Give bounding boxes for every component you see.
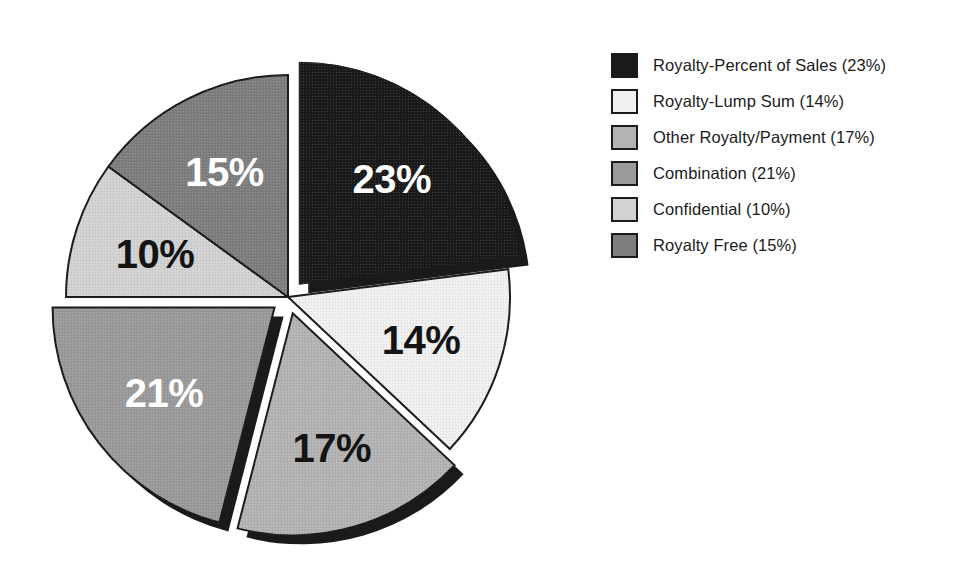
chart-legend: Royalty-Percent of Sales (23%) Royalty-L… <box>611 47 961 263</box>
slice-value-label: 17% <box>293 426 372 470</box>
legend-item[interactable]: Royalty-Lump Sum (14%) <box>611 83 961 119</box>
legend-swatch-icon <box>611 89 638 114</box>
legend-item-label: Confidential (10%) <box>653 200 791 219</box>
slice-value-label: 14% <box>382 318 461 362</box>
slice-texture-layer <box>53 62 520 535</box>
legend-item[interactable]: Royalty Free (15%) <box>611 227 961 263</box>
legend-item[interactable]: Confidential (10%) <box>611 191 961 227</box>
legend-item-label: Other Royalty/Payment (17%) <box>653 128 875 147</box>
slice-value-label: 23% <box>352 157 431 201</box>
legend-item-label: Royalty Free (15%) <box>653 236 797 255</box>
pie-svg: 23%14%17%21%10%15% <box>0 0 580 561</box>
legend-item[interactable]: Combination (21%) <box>611 155 961 191</box>
legend-item-label: Combination (21%) <box>653 164 796 183</box>
legend-swatch-icon <box>611 53 638 78</box>
legend-item-label: Royalty-Lump Sum (14%) <box>653 92 844 111</box>
legend-swatch-icon <box>611 197 638 222</box>
legend-item[interactable]: Other Royalty/Payment (17%) <box>611 119 961 155</box>
pie-chart-figure: 23%14%17%21%10%15% Royalty-Percent of Sa… <box>0 0 965 561</box>
legend-swatch-icon <box>611 233 638 258</box>
slice-value-label: 21% <box>125 371 204 415</box>
legend-item[interactable]: Royalty-Percent of Sales (23%) <box>611 47 961 83</box>
legend-item-label: Royalty-Percent of Sales (23%) <box>653 56 886 75</box>
legend-swatch-icon <box>611 161 638 186</box>
slice-value-label: 15% <box>185 150 264 194</box>
pie-plot-area: 23%14%17%21%10%15% <box>0 0 580 561</box>
slice-value-label: 10% <box>116 232 195 276</box>
legend-swatch-icon <box>611 125 638 150</box>
